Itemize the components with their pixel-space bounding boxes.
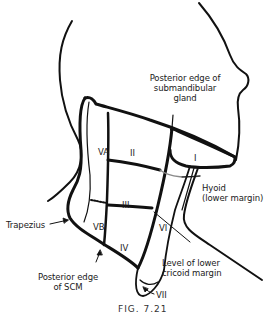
submandibular-line2: submandibular: [145, 83, 225, 93]
submandibular-line3: gland: [145, 93, 225, 103]
level-va-label: VA: [98, 147, 109, 157]
level-ii-label: II: [130, 148, 135, 158]
trapezius-annotation: Trapezius: [6, 220, 45, 230]
hyoid-line2: (lower margin): [202, 193, 263, 203]
submandibular-annotation: Posterior edge of submandibular gland: [145, 73, 225, 103]
level-vi-label: VI: [159, 223, 167, 233]
scm-annotation: Posterior edge of SCM: [28, 272, 108, 292]
hyoid-line1: Hyoid: [202, 183, 263, 193]
scm-line2: of SCM: [28, 282, 108, 292]
level-vb-label: VB: [93, 222, 105, 232]
figure-caption: FIG. 7.21: [118, 304, 168, 313]
cricoid-line1: Level of lower: [162, 258, 221, 268]
level-iii-label: III: [122, 200, 130, 210]
cricoid-annotation: Level of lower cricoid margin: [162, 258, 221, 278]
submandibular-line1: Posterior edge of: [145, 73, 225, 83]
neck-lymph-node-levels-diagram: VA II I III VB VI IV VII Posterior edge …: [0, 0, 267, 313]
hyoid-annotation: Hyoid (lower margin): [202, 183, 263, 203]
level-iv-label: IV: [120, 243, 128, 253]
level-vii-label: VII: [156, 290, 167, 300]
scm-line1: Posterior edge: [28, 272, 108, 282]
level-i-label: I: [194, 153, 197, 163]
cricoid-line2: cricoid margin: [162, 268, 221, 278]
